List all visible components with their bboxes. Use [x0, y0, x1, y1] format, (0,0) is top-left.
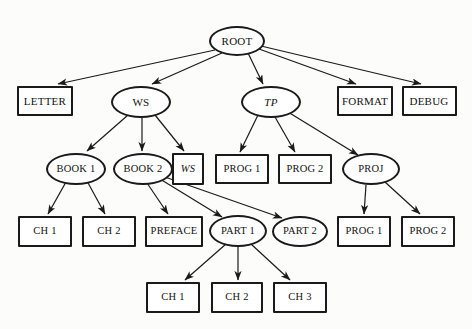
node-prog1a[interactable]: PROG 1: [215, 154, 269, 184]
node-preface[interactable]: PREFACE: [145, 216, 203, 247]
node-label-tp: TP: [264, 97, 277, 108]
node-prog2b[interactable]: PROG 2: [401, 216, 455, 247]
node-format[interactable]: FORMAT: [337, 86, 393, 116]
node-ws1[interactable]: WS: [111, 86, 171, 118]
node-root[interactable]: ROOT: [209, 26, 265, 56]
node-label-debug: DEBUG: [410, 96, 449, 107]
node-label-ch3b: CH 3: [288, 292, 311, 303]
node-label-proj: PROJ: [358, 164, 383, 175]
node-label-part1: PART 1: [221, 226, 255, 237]
node-label-ch1b: CH 1: [161, 292, 184, 303]
node-book1[interactable]: BOOK 1: [46, 153, 106, 185]
node-label-ws1: WS: [133, 97, 150, 108]
node-ch3b[interactable]: CH 3: [273, 282, 327, 313]
node-prog2a[interactable]: PROG 2: [278, 154, 332, 184]
node-label-part2: PART 2: [283, 226, 317, 237]
node-ch2b[interactable]: CH 2: [211, 282, 263, 313]
node-label-book2: BOOK 2: [124, 164, 163, 175]
node-part2[interactable]: PART 2: [272, 216, 328, 247]
node-label-preface: PREFACE: [151, 226, 198, 237]
node-label-root: ROOT: [222, 36, 253, 47]
node-ch2a[interactable]: CH 2: [82, 216, 136, 247]
hierarchy-diagram: ROOTLETTERWSTPFORMATDEBUGBOOK 1BOOK 2WSP…: [0, 0, 472, 329]
node-ch1a[interactable]: CH 1: [18, 216, 72, 247]
node-tp[interactable]: TP: [241, 86, 301, 118]
node-prog1b[interactable]: PROG 1: [337, 216, 391, 247]
node-label-ch1a: CH 1: [33, 226, 56, 237]
node-label-ws2: WS: [181, 164, 195, 175]
node-debug[interactable]: DEBUG: [402, 86, 457, 116]
node-book2[interactable]: BOOK 2: [113, 153, 173, 185]
node-label-ch2a: CH 2: [97, 226, 120, 237]
node-label-prog1a: PROG 1: [223, 164, 260, 175]
node-ch1b[interactable]: CH 1: [146, 282, 200, 313]
node-letter[interactable]: LETTER: [17, 86, 73, 116]
node-label-prog2a: PROG 2: [286, 164, 323, 175]
node-part1[interactable]: PART 1: [209, 215, 267, 247]
node-label-format: FORMAT: [342, 96, 388, 107]
node-label-ch2b: CH 2: [225, 292, 248, 303]
node-label-prog1b: PROG 1: [345, 226, 382, 237]
node-ws2[interactable]: WS: [172, 153, 204, 185]
node-layer: ROOTLETTERWSTPFORMATDEBUGBOOK 1BOOK 2WSP…: [0, 0, 472, 329]
node-label-prog2b: PROG 2: [409, 226, 446, 237]
node-label-book1: BOOK 1: [57, 164, 96, 175]
node-proj[interactable]: PROJ: [342, 153, 400, 185]
node-label-letter: LETTER: [24, 96, 66, 107]
